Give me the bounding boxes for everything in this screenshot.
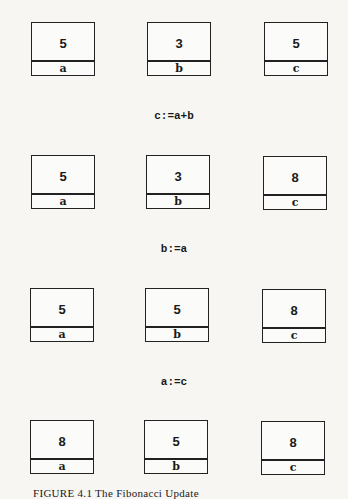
- cell-label: c: [265, 60, 327, 75]
- cell-label: b: [145, 458, 207, 473]
- cell-label: a: [32, 193, 94, 208]
- cell-value: 5: [265, 23, 327, 63]
- cell-label: c: [263, 327, 325, 342]
- variable-cell-c-state-4: 8 c: [261, 421, 325, 475]
- cell-value: 5: [146, 289, 208, 329]
- assignment-statement-2: b:=a: [0, 243, 348, 255]
- variable-cell-c-state-2: 8 c: [263, 156, 327, 210]
- cell-label: a: [31, 458, 93, 473]
- variable-cell-b-state-2: 3 b: [146, 155, 210, 209]
- cell-label: b: [147, 193, 209, 208]
- cell-value: 8: [262, 422, 324, 462]
- assignment-statement-3: a:=c: [0, 376, 348, 388]
- variable-cell-a-state-2: 5 a: [31, 155, 95, 209]
- variable-cell-c-state-3: 8 c: [262, 289, 326, 343]
- variable-cell-c-state-1: 5 c: [264, 22, 328, 76]
- variable-cell-b-state-3: 5 b: [145, 288, 209, 342]
- cell-label: c: [264, 194, 326, 209]
- cell-label: b: [148, 60, 210, 75]
- cell-value: 3: [148, 23, 210, 63]
- cell-label: a: [31, 326, 93, 341]
- cell-value: 8: [31, 421, 93, 461]
- assignment-statement-1: c:=a+b: [0, 110, 348, 122]
- cell-value: 8: [264, 157, 326, 197]
- cell-value: 3: [147, 156, 209, 196]
- cell-value: 5: [145, 421, 207, 461]
- cell-label: b: [146, 326, 208, 341]
- variable-cell-a-state-4: 8 a: [30, 420, 94, 474]
- variable-cell-b-state-4: 5 b: [144, 420, 208, 474]
- variable-cell-a-state-1: 5 a: [31, 22, 95, 76]
- figure-caption: FIGURE 4.1 The Fibonacci Update: [33, 487, 199, 499]
- cell-value: 8: [263, 290, 325, 330]
- cell-value: 5: [32, 156, 94, 196]
- cell-label: a: [32, 60, 94, 75]
- cell-value: 5: [31, 289, 93, 329]
- variable-cell-b-state-1: 3 b: [147, 22, 211, 76]
- cell-value: 5: [32, 23, 94, 63]
- variable-cell-a-state-3: 5 a: [30, 288, 94, 342]
- cell-label: c: [262, 459, 324, 474]
